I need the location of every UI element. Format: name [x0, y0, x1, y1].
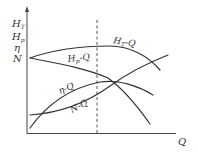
curve-label-hp-q: Hp-Q [66, 52, 91, 66]
y-label-n: N [12, 53, 23, 64]
curve-label-eta-q: η-Q [57, 80, 76, 95]
pump-characteristic-diagram: HT Hp η N Q Hp-Q HT-Q η-Q N-Q [0, 0, 198, 152]
curve-hp-q [30, 58, 150, 124]
axes [25, 6, 176, 134]
curve-ht-q [30, 46, 160, 70]
x-label-q: Q [178, 136, 186, 147]
y-axis-arrow-icon [25, 6, 29, 12]
y-label-eta: η [14, 42, 20, 53]
y-label-ht: HT [11, 18, 26, 30]
curve-label-ht-q: HT-Q [111, 35, 136, 50]
